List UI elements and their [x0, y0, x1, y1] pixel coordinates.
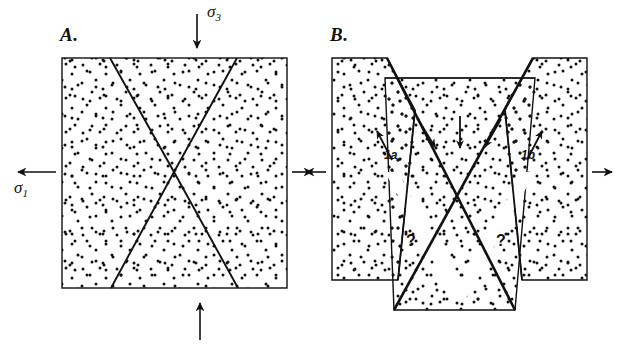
figure-canvas: A. B. σ3 σ1 1a 1b ? ? [0, 0, 621, 351]
sigma3-subscript: 3 [215, 11, 221, 23]
sigma3-label: σ3 [207, 2, 221, 23]
diagram-svg [0, 0, 621, 351]
block-label-1b: 1b [521, 148, 535, 162]
question-mark-left: ? [406, 232, 416, 250]
panel-a-group [18, 14, 312, 340]
panel-b-group [306, 58, 612, 310]
sigma1-label: σ1 [14, 178, 28, 199]
panel-b-label: B. [330, 24, 348, 46]
block-label-1a: 1a [384, 148, 397, 162]
panel-a-label: A. [60, 24, 78, 46]
sigma1-subscript: 1 [22, 187, 28, 199]
question-mark-right: ? [496, 232, 506, 250]
